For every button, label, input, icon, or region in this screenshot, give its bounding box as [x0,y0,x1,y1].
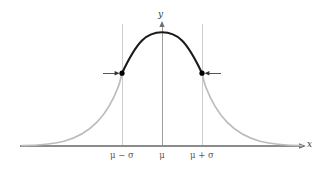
inflection-point-marker-right [199,71,204,76]
y-axis-arrowhead-icon [159,21,164,27]
normal-distribution-figure: y x μ − σ μ μ + σ [0,0,324,173]
inflection-point-marker-left [119,71,124,76]
tick-label-mu-minus-sigma: μ − σ [110,150,134,160]
inflection-arrow-left-icon [103,71,120,76]
inflection-arrow-right-icon [204,71,221,76]
x-axis-label: x [307,139,312,149]
y-axis-label: y [158,9,163,19]
curve-right-tail [202,73,302,146]
curve-left-tail [22,73,122,146]
tick-label-mu: μ [159,150,165,160]
distribution-plot [0,0,324,173]
tick-label-mu-plus-sigma: μ + σ [190,150,214,160]
